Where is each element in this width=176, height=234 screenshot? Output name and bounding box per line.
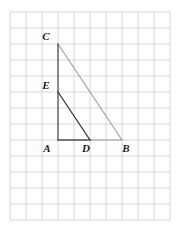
vertex-label-e: E: [41, 79, 49, 91]
vertex-label-a: A: [42, 142, 50, 154]
geometry-figure: ABCDE: [0, 0, 176, 234]
grid-layer: [10, 12, 170, 220]
vertex-label-c: C: [42, 30, 50, 42]
vertex-label-d: D: [81, 142, 90, 154]
geometry-diagram: ABCDE: [0, 0, 176, 234]
vertex-label-b: B: [121, 142, 129, 154]
